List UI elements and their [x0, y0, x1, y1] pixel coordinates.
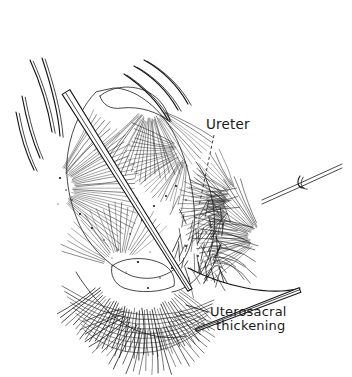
- label-uterosacral-line2: thickening: [216, 318, 286, 333]
- surgical-illustration-figure: Ureter Uterosacral thickening: [0, 0, 352, 377]
- stipple-dot: [185, 199, 187, 201]
- stipple-dot: [205, 231, 207, 233]
- stipple-dot: [59, 177, 61, 179]
- stipple-dot: [175, 185, 177, 187]
- stipple-dot: [195, 217, 196, 218]
- stipple-dot: [147, 287, 149, 289]
- stipple-dot: [111, 257, 112, 258]
- stipple-dot: [79, 213, 81, 215]
- stipple-dot: [103, 239, 104, 240]
- stipple-dot: [197, 255, 199, 257]
- stipple-dot: [185, 245, 187, 247]
- illustration-canvas: Ureter Uterosacral thickening: [0, 0, 352, 377]
- stipple-dot: [153, 205, 155, 207]
- stipple-dot: [165, 195, 167, 197]
- stipple-dot: [71, 199, 73, 201]
- stipple-dot: [159, 277, 160, 278]
- stipple-dot: [91, 227, 93, 229]
- stipple-dot: [125, 271, 126, 272]
- label-ureter: Ureter: [206, 116, 250, 132]
- label-uterosacral-line1: Uterosacral: [210, 304, 287, 319]
- stipple-dot: [117, 249, 119, 251]
- stipple-dot: [137, 261, 139, 263]
- stipple-dot: [57, 203, 58, 204]
- stipple-dot: [65, 189, 66, 190]
- stipple-dot: [129, 233, 131, 235]
- stipple-dot: [149, 251, 150, 252]
